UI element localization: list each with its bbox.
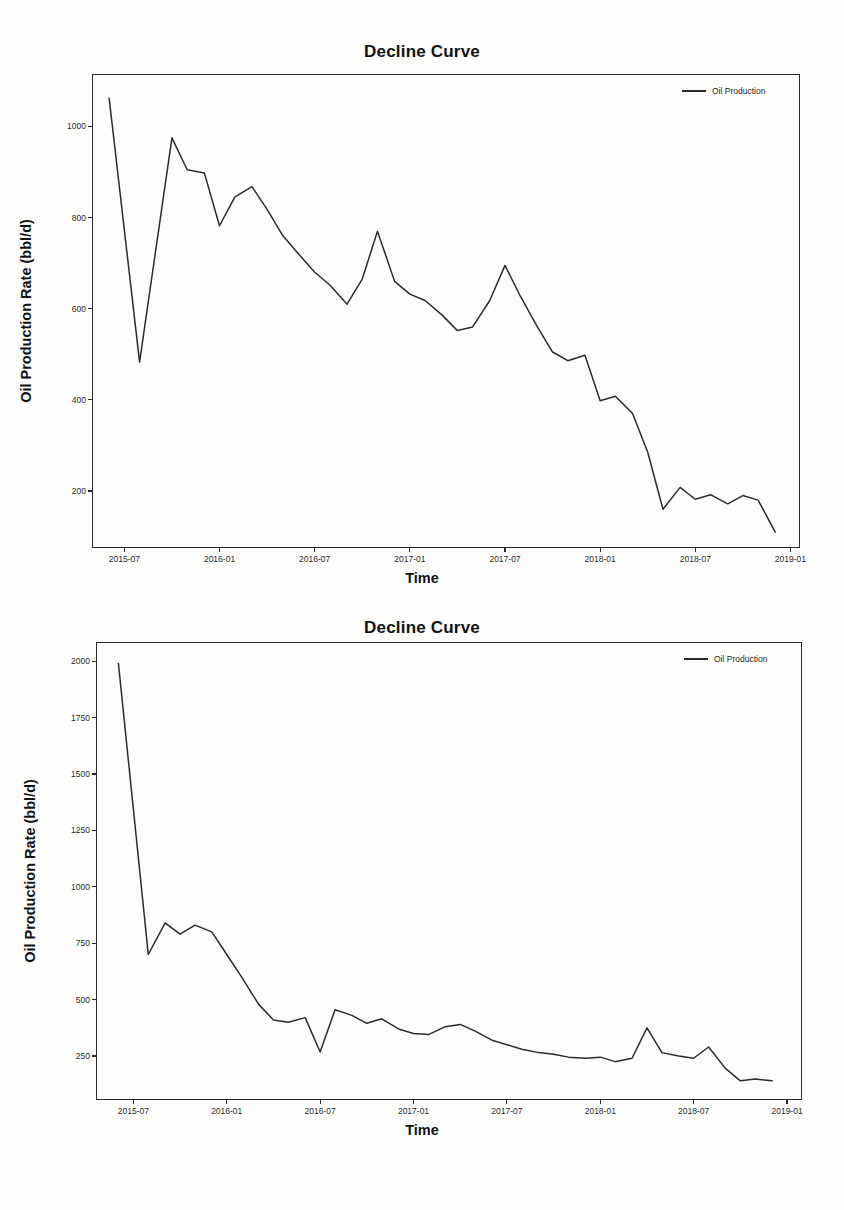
x-axis-tick-mark [600,1100,601,1104]
x-axis-tick-mark [413,1100,414,1104]
y-axis-tick-label: 250 [54,1051,90,1061]
x-axis-tick-label: 2016-07 [299,554,330,564]
x-axis-tick-mark [226,1100,227,1104]
y-axis-tick-mark [92,830,96,831]
x-axis-tick-mark [409,548,410,552]
y-axis-tick-label: 1000 [50,121,86,131]
y-axis-tick-mark [88,308,92,309]
chart-panel-top: Decline Curve Oil Production Rate (bbl/d… [0,30,844,610]
figure-page: Decline Curve Oil Production Rate (bbl/d… [0,0,844,1210]
x-axis-tick-mark [695,548,696,552]
x-axis-tick-mark [124,548,125,552]
y-axis-tick-mark [92,943,96,944]
series-line-oil-production-bottom [118,663,772,1080]
y-axis-tick-label: 1500 [54,769,90,779]
x-axis-tick-label: 2017-01 [394,554,425,564]
y-axis-tick-mark [92,661,96,662]
y-axis-tick-label: 500 [54,995,90,1005]
y-axis-tick-label: 400 [50,395,86,405]
x-axis-tick-label: 2018-07 [680,554,711,564]
y-axis-tick-mark [92,1055,96,1056]
x-axis-tick-label: 2016-01 [211,1106,242,1116]
x-axis-tick-mark [504,548,505,552]
y-axis-tick-mark [92,886,96,887]
chart-panel-bottom: Decline Curve Oil Production Rate (bbl/d… [0,610,844,1210]
x-axis-tick-mark [133,1100,134,1104]
y-axis-tick-mark [92,717,96,718]
x-axis-tick-label: 2017-07 [489,554,520,564]
x-axis-tick-mark [506,1100,507,1104]
y-axis-tick-label: 1000 [54,882,90,892]
x-axis-tick-label: 2018-01 [585,554,616,564]
x-axis-tick-mark [320,1100,321,1104]
x-axis-tick-label: 2017-01 [398,1106,429,1116]
y-axis-tick-label: 1750 [54,713,90,723]
y-axis-tick-mark [92,999,96,1000]
x-axis-tick-label: 2019-01 [775,554,806,564]
y-axis-tick-label: 2000 [54,656,90,666]
series-line-oil-production-top [109,98,775,532]
x-axis-tick-mark [600,548,601,552]
y-axis-tick-mark [92,773,96,774]
y-axis-tick-mark [88,126,92,127]
y-axis-tick-label: 1250 [54,825,90,835]
y-axis-tick-label: 600 [50,304,86,314]
x-axis-tick-label: 2018-01 [585,1106,616,1116]
x-axis-tick-mark [786,1100,787,1104]
y-axis-tick-label: 200 [50,486,86,496]
y-axis-tick-mark [88,490,92,491]
x-axis-tick-label: 2019-01 [771,1106,802,1116]
x-axis-tick-label: 2015-07 [109,554,140,564]
y-axis-tick-mark [88,217,92,218]
y-axis-tick-label: 800 [50,213,86,223]
x-axis-tick-mark [219,548,220,552]
x-axis-tick-label: 2017-07 [491,1106,522,1116]
y-axis-tick-label: 750 [54,938,90,948]
y-axis-tick-mark [88,399,92,400]
x-axis-tick-mark [314,548,315,552]
series-layer-top [0,30,844,610]
x-axis-tick-label: 2016-07 [305,1106,336,1116]
x-axis-tick-mark [693,1100,694,1104]
x-axis-tick-mark [790,548,791,552]
x-axis-tick-label: 2016-01 [204,554,235,564]
x-axis-tick-label: 2018-07 [678,1106,709,1116]
x-axis-tick-label: 2015-07 [118,1106,149,1116]
series-layer-bottom [0,610,844,1210]
